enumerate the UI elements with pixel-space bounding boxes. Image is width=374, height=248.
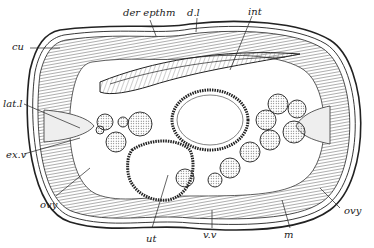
label-ovary-left: ovy (40, 200, 57, 210)
label-intestine: int (248, 7, 262, 17)
label-excretory-vessel: ex.v (6, 150, 26, 160)
label-muscle: m (284, 230, 293, 240)
label-dermal-epithelium: der epthm (123, 8, 176, 18)
label-ventral-vessel: v.v (203, 230, 216, 240)
label-ovary-right: ovy (344, 206, 361, 216)
label-lateral-line: lat.l (3, 99, 23, 109)
label-uterus: ut (146, 234, 156, 244)
label-cuticle: cu (12, 42, 24, 52)
cross-section-illustration (0, 0, 374, 248)
label-dorsal-line: d.l (187, 8, 200, 18)
